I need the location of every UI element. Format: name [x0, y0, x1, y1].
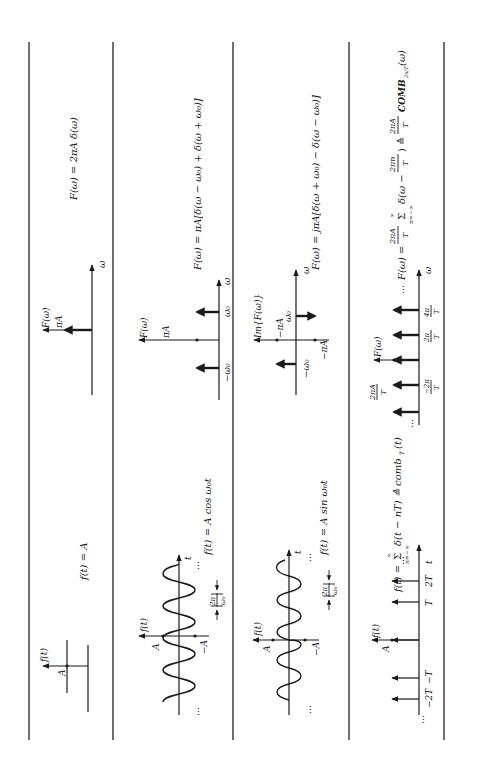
- time-axis-label: f(t): [39, 648, 49, 663]
- svg-text:n=−∞: n=−∞: [403, 545, 410, 564]
- time-plot-sine: f(t) A −A t … … 2π ω₀: [253, 550, 339, 715]
- height-num: 2πA: [368, 384, 377, 401]
- freq-axis-label: F(ω): [373, 336, 383, 358]
- impulse-label: πA: [54, 315, 64, 329]
- t-label: t: [424, 560, 434, 564]
- level-label: A: [381, 645, 391, 653]
- svg-text:2πA: 2πA: [388, 228, 397, 245]
- svg-text:T: T: [398, 450, 405, 455]
- tick-neg-T: −T: [424, 669, 434, 684]
- neg-omega0-label: −ω₀: [301, 359, 311, 378]
- freq-plot-comb: F(ω) 2πA T −2π T 2π T 4π T ω … …: [368, 266, 441, 428]
- ellipsis-left: …: [191, 707, 201, 716]
- time-axis-label: f(t): [371, 624, 381, 639]
- svg-text:2πA: 2πA: [388, 118, 397, 135]
- freq-formula-sine: F(ω) = jπA[δ(ω + ω₀) − δ(ω − ω₀)]: [310, 95, 321, 271]
- freq-axis-label: Im{F(ω)}: [253, 294, 263, 339]
- row-comb: f(t) A −2T −T T 2T t … … f(t) = Σ ∞ n=−∞…: [368, 50, 441, 724]
- svg-text:2π/T: 2π/T: [403, 66, 409, 79]
- row-sine: f(t) A −A t … … 2π ω₀ f(t) = A sin ω₀t: [253, 95, 339, 715]
- freq-plot-constant: F(ω) πA ω: [41, 260, 107, 395]
- svg-text:F(ω) =: F(ω) =: [396, 246, 407, 281]
- freq-formula-comb: F(ω) = 2πA T Σ ∞ n=−∞ δ(ω − 2πn T ) ≙ 2π…: [388, 50, 414, 281]
- freq-plot-cosine: F(ω) πA −ω₀ ω₀ ω: [139, 277, 232, 400]
- tick-neg-2T: −2T: [424, 688, 434, 708]
- omega-label: ω: [97, 260, 107, 268]
- table: f(t) A f(t) = A F(ω) πA ω F(ω) = 2πA δ(ω…: [29, 42, 444, 740]
- t-label: t: [293, 550, 303, 554]
- freq-axis-label: F(ω): [41, 307, 51, 329]
- tick-neg-2pi: −2π: [423, 379, 431, 394]
- svg-text:T: T: [401, 122, 410, 128]
- time-plot-constant: f(t) A: [39, 640, 88, 712]
- period-den: ω₀: [331, 586, 339, 595]
- tick-T: T: [424, 599, 434, 606]
- row-constant: f(t) A f(t) = A F(ω) πA ω F(ω) = 2πA δ(ω…: [39, 117, 107, 712]
- time-axis-label: f(t): [139, 618, 149, 633]
- svg-text:T: T: [433, 308, 441, 314]
- period-num: 2π: [209, 597, 217, 607]
- time-formula-comb: f(t) = Σ ∞ n=−∞ δ(t − nT) ≙ comb T (t): [385, 437, 410, 593]
- page: f(t) A f(t) = A F(ω) πA ω F(ω) = 2πA δ(ω…: [0, 0, 477, 783]
- row-cosine: f(t) A −A t … … 2π ω₀ f(t) = A cos ω₀t: [139, 98, 232, 716]
- neg-amp-label: −A: [199, 639, 209, 654]
- svg-text:T: T: [401, 232, 410, 238]
- freq-plot-sine: Im{F(ω)} −πA −πA −ω₀ ω₀ ω: [253, 266, 329, 395]
- tick-2T: 2T: [424, 574, 434, 588]
- pos-omega0-label: ω₀: [222, 306, 232, 317]
- svg-text:T: T: [401, 160, 410, 166]
- svg-text:(t): (t): [392, 437, 403, 449]
- svg-text:∞: ∞: [388, 213, 395, 218]
- level-label: A: [57, 669, 67, 677]
- pos-amp-label: A: [151, 643, 161, 651]
- time-axis-label: f(t): [253, 622, 263, 637]
- ellipsis-right: …: [396, 285, 406, 294]
- tick-4pi: 4π: [423, 308, 431, 318]
- period-num: 2π: [321, 587, 329, 597]
- svg-text:2πn: 2πn: [388, 157, 397, 174]
- height-den: T: [379, 389, 388, 395]
- svg-text:) ≙: ) ≙: [396, 137, 407, 152]
- svg-text:Σ: Σ: [392, 553, 403, 560]
- time-plot-cosine: f(t) A −A t … … 2π ω₀: [139, 555, 227, 716]
- impulse-label: πA: [161, 325, 171, 339]
- svg-text:f(t) =: f(t) =: [392, 565, 403, 593]
- time-formula-sine: f(t) = A sin ω₀t: [318, 479, 329, 556]
- omega-label: ω: [423, 266, 433, 274]
- neg-omega0-label: −ω₀: [222, 363, 232, 382]
- svg-text:COMB: COMB: [397, 79, 407, 112]
- svg-text:n=−∞: n=−∞: [407, 205, 414, 224]
- ellipsis-left: …: [405, 419, 415, 428]
- ellipsis-left: …: [416, 715, 426, 724]
- svg-text:δ(t − nT) ≙ comb: δ(t − nT) ≙ comb: [392, 458, 403, 546]
- ellipsis-right: …: [191, 561, 201, 570]
- ellipsis-right: …: [303, 553, 313, 562]
- svg-text:δ(ω −: δ(ω −: [396, 174, 407, 204]
- pos-amp-label: A: [262, 645, 272, 653]
- pos-omega0-label: ω₀: [283, 311, 293, 322]
- rotated-table-svg: f(t) A f(t) = A F(ω) πA ω F(ω) = 2πA δ(ω…: [0, 0, 477, 783]
- time-formula-constant: f(t) = A: [78, 543, 89, 581]
- neg-amp-label: −A: [311, 641, 321, 656]
- freq-formula-constant: F(ω) = 2πA δ(ω): [68, 117, 79, 201]
- svg-text:T: T: [433, 333, 441, 339]
- freq-axis-label: F(ω): [139, 317, 149, 339]
- ellipsis-left: …: [303, 705, 313, 714]
- tick-2pi: 2π: [423, 333, 431, 343]
- lower-impulse-label: −πA: [319, 340, 329, 360]
- omega-label: ω: [222, 277, 232, 285]
- svg-text:(ω): (ω): [396, 50, 407, 66]
- freq-formula-cosine: F(ω) = πA[δ(ω − ω₀) + δ(ω + ω₀)]: [192, 98, 203, 271]
- period-den: ω₀: [219, 596, 227, 605]
- t-label: t: [183, 556, 193, 560]
- svg-text:T: T: [433, 384, 441, 390]
- svg-text:∞: ∞: [385, 553, 392, 558]
- time-formula-cosine: f(t) = A cos ω₀t: [202, 477, 213, 556]
- svg-text:Σ: Σ: [396, 213, 407, 220]
